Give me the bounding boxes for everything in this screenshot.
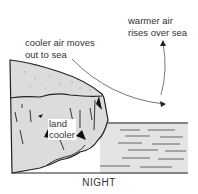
diagram-caption: NIGHT <box>0 177 198 188</box>
warm-air-label: warmer air rises over sea <box>128 15 187 38</box>
warm-air-label-line1: warmer air <box>128 15 187 27</box>
warm-air-arrow <box>160 40 166 95</box>
land-label: land cooler <box>48 119 76 140</box>
land-label-line2: cooler <box>49 130 75 141</box>
cool-air-label: cooler air moves out to sea <box>25 37 95 60</box>
warm-air-label-line2: rises over sea <box>128 27 187 39</box>
cool-air-label-line1: cooler air moves <box>25 37 95 49</box>
land-label-line1: land <box>49 119 75 130</box>
land-sea-breeze-diagram: cooler air moves out to sea warmer air r… <box>0 0 198 194</box>
cool-air-label-line2: out to sea <box>25 49 95 61</box>
